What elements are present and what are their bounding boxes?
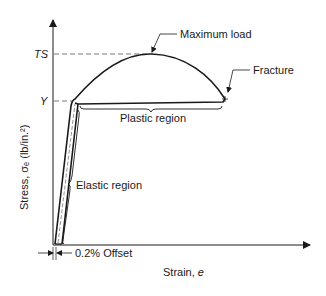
plastic-region-line	[75, 99, 225, 104]
elastic-brace	[63, 110, 80, 244]
maximum-load-label: Maximum load	[180, 28, 252, 40]
fracture-label: Fracture	[253, 64, 294, 76]
x-axis-label-var: e	[198, 266, 204, 278]
elastic-region-label: Elastic region	[76, 179, 142, 191]
maximum-load-leader	[152, 34, 177, 52]
offset-line	[62, 104, 78, 244]
yield-label: Y	[40, 95, 48, 107]
offset-label: 0.2% Offset	[75, 247, 132, 259]
x-axis-label-text: Strain,	[163, 266, 198, 278]
plastic-region-label: Plastic region	[120, 112, 186, 124]
stress-strain-diagram: TS Y Maximum load Fracture Plastic regio…	[0, 0, 326, 296]
ts-label: TS	[34, 48, 49, 60]
x-axis-label: Strain, e	[163, 266, 204, 278]
y-axis-label: Stress, σₑ (lb/in.²)	[18, 125, 30, 210]
fracture-leader	[228, 70, 250, 92]
stress-strain-curve	[55, 54, 225, 244]
